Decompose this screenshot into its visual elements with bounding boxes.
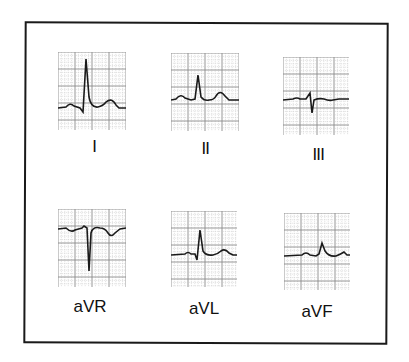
ecg-trace-lead-aVF [284,243,350,256]
ecg-tracing-lead-aVL [171,211,237,287]
ecg-panel-lead-III [283,57,349,135]
grid-paper [171,211,237,287]
ecg-tracing-lead-I [58,52,126,130]
lead-label-II: II [178,140,234,158]
ecg-tracing-lead-aVR [58,209,126,287]
grid-paper [58,209,126,287]
lead-label-aVR: aVR [50,298,130,316]
ecg-panel-lead-aVF [284,213,350,290]
ecg-panel-lead-aVL [171,211,237,287]
grid-paper [171,53,239,131]
lead-label-I: I [67,138,123,156]
lead-label-aVF: aVF [277,303,357,321]
ecg-trace-lead-III [283,93,349,113]
lead-label-III: III [291,146,347,164]
ecg-tracing-lead-aVF [284,213,350,290]
ecg-panel-lead-aVR [58,209,126,287]
grid-paper [58,52,126,130]
grid-paper [283,57,349,135]
ecg-panel-lead-I [58,52,126,130]
ecg-tracing-lead-III [283,57,349,135]
ecg-panel-lead-II [171,53,239,131]
grid-paper [284,213,350,290]
lead-label-aVL: aVL [164,300,244,318]
ecg-tracing-lead-II [171,53,239,131]
